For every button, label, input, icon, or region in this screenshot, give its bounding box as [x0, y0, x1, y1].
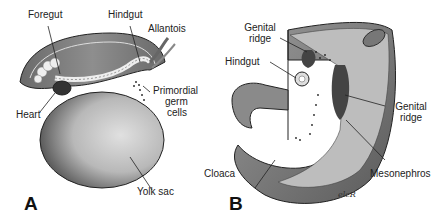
label-genital-ridge-top-line1: Genital — [240, 22, 280, 33]
tail-shape — [232, 83, 288, 128]
label-genital-ridge-top-line2: ridge — [240, 33, 280, 44]
label-hindgut-b: Hindgut — [225, 56, 259, 67]
label-yolk-sac: Yolk sac — [137, 186, 174, 197]
panel-letter-a: A — [24, 193, 38, 215]
label-genital-ridge-right-line1: Genital — [390, 101, 432, 112]
label-primordial-germ-cells-line3: cells — [167, 107, 187, 118]
label-cloaca: Cloaca — [204, 168, 235, 179]
label-genital-ridge-right-line2: ridge — [390, 112, 432, 123]
primordial-germ-cells-dots — [133, 81, 145, 101]
label-allantois: Allantois — [148, 23, 186, 34]
label-heart: Heart — [16, 109, 40, 120]
label-primordial-germ-cells-line1: Primordial — [153, 85, 198, 96]
label-primordial-germ-cells-line2: germ — [165, 96, 188, 107]
label-hindgut-a: Hindgut — [108, 9, 142, 20]
label-foregut: Foregut — [28, 9, 62, 20]
diagram-illustration — [0, 0, 445, 221]
heart-shape — [53, 81, 71, 95]
label-mesonephros: Mesonephros — [370, 168, 431, 179]
yolk-sac-shape — [40, 92, 164, 188]
panel-letter-b: B — [229, 193, 243, 215]
panel-a-illustration — [20, 26, 175, 190]
genital-ridge-shape — [302, 50, 316, 68]
artist-signature: elcR — [338, 190, 356, 199]
